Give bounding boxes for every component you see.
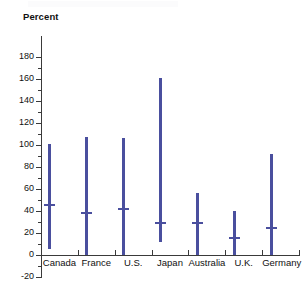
range-bar-canada (48, 144, 51, 250)
y-tick-label-wrap: 140 (0, 96, 34, 105)
y-tick-label: 120 (2, 118, 34, 127)
range-bar-france (85, 137, 88, 255)
x-axis-line (41, 255, 299, 256)
y-tick-label: 80 (2, 162, 34, 171)
y-tick-label-wrap: 80 (0, 162, 34, 171)
median-tick (155, 222, 166, 224)
y-tick-label: 160 (2, 74, 34, 83)
y-tick-label-wrap: 40 (0, 206, 34, 215)
y-tick-label: 20 (2, 228, 34, 237)
x-tick (115, 250, 116, 256)
range-bar-australia (196, 193, 199, 255)
range-line (196, 193, 199, 255)
y-tick-label-wrap: 160 (0, 74, 34, 83)
y-tick-label: 60 (2, 184, 34, 193)
median-tick (118, 208, 129, 210)
range-line (270, 154, 273, 255)
range-bar-japan (159, 78, 162, 242)
y-tick-label-wrap: -20 (0, 272, 34, 281)
y-tick-major (36, 167, 42, 168)
y-tick-major (36, 189, 42, 190)
x-tick (152, 250, 153, 256)
median-tick (229, 237, 240, 239)
x-tick (225, 250, 226, 256)
category-label-australia: Australia (188, 257, 225, 268)
y-tick-label-wrap: 20 (0, 228, 34, 237)
range-bar-u-k (233, 211, 236, 255)
y-tick-label: 100 (2, 140, 34, 149)
median-tick (266, 227, 277, 229)
y-tick-label: 40 (2, 206, 34, 215)
range-bar-germany (270, 154, 273, 255)
y-tick-label-wrap: 100 (0, 140, 34, 149)
median-tick (44, 204, 55, 206)
y-tick-label-wrap: 0 (0, 250, 34, 259)
y-tick-minor (38, 90, 42, 91)
category-label-japan: Japan (152, 257, 189, 268)
y-tick-minor (38, 112, 42, 113)
y-tick-major (36, 57, 42, 58)
y-tick-minor (38, 244, 42, 245)
x-tick (299, 250, 300, 256)
y-tick-label-wrap: 60 (0, 184, 34, 193)
y-tick-label-wrap: 120 (0, 118, 34, 127)
x-tick (78, 250, 79, 256)
y-tick-major (36, 145, 42, 146)
range-line (122, 138, 125, 255)
x-tick (262, 250, 263, 256)
y-tick-major (36, 277, 42, 278)
category-label-canada: Canada (41, 257, 78, 268)
y-tick-major (36, 123, 42, 124)
y-tick-minor (38, 222, 42, 223)
y-tick-label: 140 (2, 96, 34, 105)
x-tick (41, 250, 42, 256)
y-tick-major (36, 79, 42, 80)
y-tick-label: 0 (2, 250, 34, 259)
plot-area: 180160140120100806040200-20 CanadaFrance… (0, 0, 307, 295)
median-tick (81, 212, 92, 214)
category-label-france: France (78, 257, 115, 268)
category-label-u-k: U.K. (225, 257, 262, 268)
median-tick (192, 222, 203, 224)
y-tick-label: 180 (2, 52, 34, 61)
category-label-germany: Germany (262, 257, 299, 268)
y-tick-major (36, 211, 42, 212)
y-tick-minor (38, 156, 42, 157)
y-tick-minor (38, 178, 42, 179)
y-tick-major (36, 233, 42, 234)
y-tick-minor (38, 68, 42, 69)
percent-range-chart: Percent 180160140120100806040200-20 Cana… (0, 0, 307, 295)
range-line (85, 137, 88, 255)
y-tick-major (36, 101, 42, 102)
y-tick-minor (38, 134, 42, 135)
category-label-u-s: U.S. (115, 257, 152, 268)
y-tick-minor (38, 200, 42, 201)
y-tick-label-wrap: 180 (0, 52, 34, 61)
x-tick (188, 250, 189, 256)
range-bar-u-s (122, 138, 125, 255)
range-line (159, 78, 162, 242)
range-line (48, 144, 51, 250)
range-line (233, 211, 236, 255)
y-tick-label: -20 (2, 272, 34, 281)
